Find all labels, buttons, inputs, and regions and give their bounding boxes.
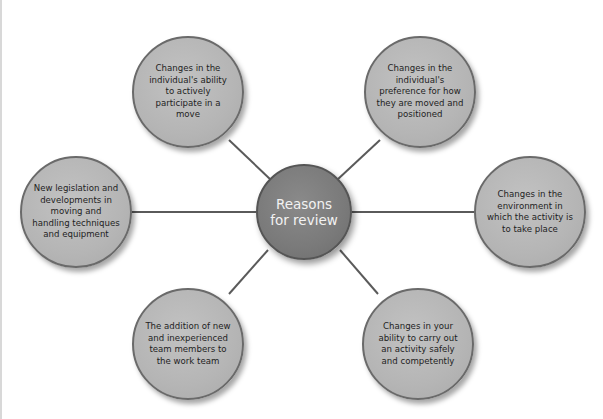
node-label: The addition of new and inexperienced te…: [144, 321, 232, 367]
node-label: New legislation and developments in movi…: [32, 183, 120, 241]
node-left: New legislation and developments in movi…: [20, 156, 132, 268]
node-bottom-right: Changes in your ability to carry out an …: [362, 288, 474, 400]
node-label: Changes in your ability to carry out an …: [374, 321, 462, 367]
node-top-right: Changes in the individual's preference f…: [364, 36, 476, 148]
node-label: Changes in the environment in which the …: [486, 189, 574, 235]
connector-top-left: [229, 140, 271, 180]
node-right: Changes in the environment in which the …: [474, 156, 586, 268]
node-label: Changes in the individual's ability to a…: [144, 63, 232, 121]
node-top-left: Changes in the individual's ability to a…: [132, 36, 244, 148]
center-label: Reasons for review: [266, 196, 342, 228]
connector-bottom-left: [229, 250, 268, 294]
node-label: Changes in the individual's preference f…: [376, 63, 464, 121]
center-node: Reasons for review: [256, 164, 352, 260]
connector-bottom-right: [340, 250, 378, 294]
connector-top-right: [337, 140, 380, 180]
node-bottom-left: The addition of new and inexperienced te…: [132, 288, 244, 400]
